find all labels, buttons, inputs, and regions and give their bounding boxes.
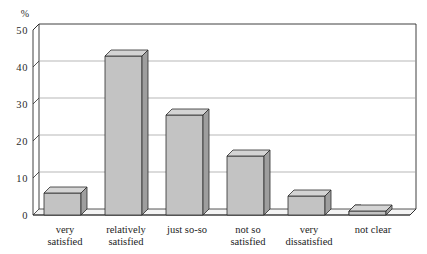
cat-label-not-so-satisfied-line1: not so <box>235 224 260 235</box>
bar-chart-figure: % 50 40 30 20 10 0 <box>0 0 427 254</box>
cat-label-very-dissatisfied-line2: dissatisfied <box>285 236 333 247</box>
cat-label-not-clear-line1: not clear <box>355 224 392 235</box>
bar-relatively-satisfied <box>105 50 148 215</box>
y-tick-40: 40 <box>16 62 28 73</box>
chart-background <box>0 0 427 254</box>
cat-label-very-satisfied-line2: satisfied <box>48 236 84 247</box>
y-tick-0: 0 <box>22 210 28 221</box>
cat-label-not-so-satisfied-line2: satisfied <box>231 236 267 247</box>
bar-not-clear <box>349 205 392 215</box>
cat-label-very-satisfied-line1: very <box>56 224 75 235</box>
chart-canvas: % 50 40 30 20 10 0 <box>0 0 427 254</box>
cat-label-relatively-satisfied-line2: satisfied <box>109 236 145 247</box>
cat-label-relatively-satisfied-line1: relatively <box>106 224 146 235</box>
bar-very-satisfied <box>44 187 87 215</box>
y-tick-50: 50 <box>16 25 28 36</box>
y-tick-30: 30 <box>16 99 28 110</box>
bar-just-so-so <box>166 109 209 215</box>
y-axis-unit-label: % <box>21 8 29 19</box>
cat-label-very-dissatisfied-line1: very <box>300 224 319 235</box>
bar-very-dissatisfied <box>288 190 331 215</box>
bar-not-so-satisfied <box>227 150 270 215</box>
y-tick-20: 20 <box>16 136 28 147</box>
y-tick-10: 10 <box>16 173 28 184</box>
cat-label-just-so-so-line1: just so-so <box>166 224 207 235</box>
